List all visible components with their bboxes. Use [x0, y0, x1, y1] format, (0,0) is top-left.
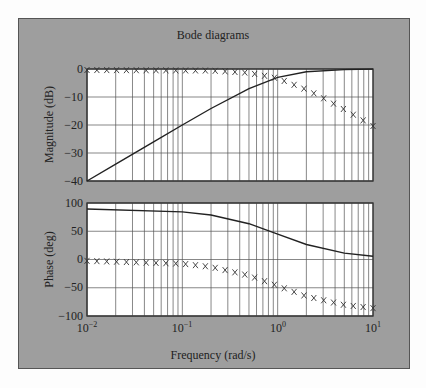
bode-plots [0, 0, 426, 388]
